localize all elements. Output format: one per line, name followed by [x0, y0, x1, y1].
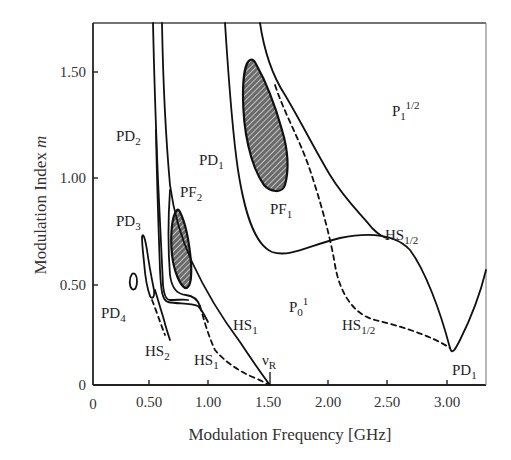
pd1-curve [225, 23, 486, 351]
x-tick-label: 3.00 [434, 394, 460, 410]
label-pd1-bottom: PD1 [452, 362, 477, 381]
label-hs-half-lower: HS1/2 [342, 317, 375, 336]
hs2-curve [155, 290, 170, 340]
label-p0: P01 [289, 295, 308, 318]
label-pd4: PD4 [101, 305, 126, 324]
y-tick-label: 0.50 [60, 277, 86, 293]
label-pd1-top: PD1 [199, 152, 224, 171]
pd3-curve [142, 235, 154, 298]
label-hs2: HS2 [145, 343, 170, 362]
y-tick-label: 1.50 [60, 64, 86, 80]
x-tick-label: 1.00 [195, 394, 221, 410]
pf1-chaotic-region [243, 60, 287, 191]
bifurcation-chart: 0 0.50 1.00 1.50 2.00 2.50 3.00 0 0.50 1… [0, 0, 511, 460]
x-axis-ticks [149, 372, 447, 385]
x-axis-title: Modulation Frequency [GHz] [188, 425, 391, 444]
label-hs1-upper: HS1 [233, 317, 258, 336]
x-tick-label: 2.00 [315, 394, 341, 410]
x-tick-label: 0.50 [136, 394, 162, 410]
x-tick-label: 2.50 [374, 394, 400, 410]
x-tick-label: 1.50 [255, 394, 281, 410]
label-pd2: PD2 [116, 128, 141, 147]
label-nu-r: νR [262, 352, 277, 371]
label-pd3: PD3 [116, 213, 141, 232]
y-tick-label: 0 [79, 377, 87, 393]
label-hs1-lower: HS1 [194, 352, 219, 371]
plot-frame [93, 23, 486, 385]
y-axis-tick-labels: 0 0.50 1.00 1.50 [60, 64, 86, 393]
y-axis-title: Modulation Index m [31, 136, 50, 275]
label-p1-half: P11/2 [392, 99, 420, 122]
x-axis-tick-labels: 0 0.50 1.00 1.50 2.00 2.50 3.00 [89, 394, 460, 412]
pd4-island-curve [130, 273, 137, 289]
x-tick-label: 0 [89, 396, 97, 412]
pf2-chaotic-region [171, 210, 191, 288]
y-tick-label: 1.00 [60, 170, 86, 186]
label-pf1: PF1 [270, 201, 292, 220]
label-pf2: PF2 [180, 184, 202, 203]
